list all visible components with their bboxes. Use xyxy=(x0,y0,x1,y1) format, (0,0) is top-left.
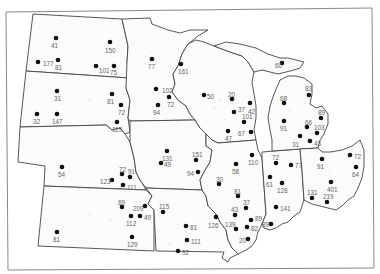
map-dot-label: 68 xyxy=(280,95,288,102)
map-dot-label: 72 xyxy=(354,153,362,160)
map-dot-label: 81 xyxy=(55,64,63,71)
map-dot-label: 41 xyxy=(51,42,59,49)
map-dot xyxy=(274,161,279,166)
map-dot-label: 91 xyxy=(128,168,136,175)
map-dot xyxy=(308,139,313,144)
map-dot xyxy=(245,225,250,230)
map-dot xyxy=(196,170,201,175)
map-dot-label: 141 xyxy=(280,205,291,212)
map-dot-label: 177 xyxy=(43,60,54,67)
map-dot xyxy=(128,175,133,180)
map-dot xyxy=(121,183,126,188)
map-dot-label: 31 xyxy=(54,95,62,102)
map-dot xyxy=(110,92,115,97)
map-dot xyxy=(226,129,231,134)
map-dot-label: 43 xyxy=(231,206,239,213)
map-dot xyxy=(154,87,159,92)
map-dot xyxy=(246,237,251,242)
map-dot-label: 102 xyxy=(162,87,173,94)
map-dot xyxy=(320,157,325,162)
map-dot-label: 72 xyxy=(167,101,175,108)
map-dot xyxy=(354,165,359,170)
map-dot-label: 49 xyxy=(164,161,172,168)
map-dot xyxy=(307,93,312,98)
map-dot-label: 72 xyxy=(119,166,127,173)
map-dot-label: 161 xyxy=(178,68,189,75)
map-dot xyxy=(54,36,59,41)
map-dot-label: 110 xyxy=(248,159,259,166)
map-dot-label: 81 xyxy=(53,236,61,243)
map-dot xyxy=(249,130,254,135)
map-dot xyxy=(319,116,324,121)
map-dot xyxy=(234,162,239,167)
map-dot xyxy=(156,103,161,108)
map-dot-label: 77 xyxy=(295,162,303,169)
map-dot xyxy=(94,64,99,69)
map-dot xyxy=(280,181,285,186)
map-dot-label: 37 xyxy=(243,199,251,206)
map-dot-label: 37 xyxy=(238,106,246,113)
midwest-dot-map: 4115017781101753181723214711954729112311… xyxy=(0,0,380,274)
map-dot-label: 72 xyxy=(272,154,280,161)
map-dot-label: 50 xyxy=(207,93,215,100)
map-dot-label: 209 xyxy=(133,205,144,212)
map-dot xyxy=(60,165,65,170)
map-dot-label: 101 xyxy=(242,113,253,120)
map-dot xyxy=(248,101,253,106)
map-dot xyxy=(184,224,189,229)
map-dot xyxy=(325,200,330,205)
map-dot-label: 147 xyxy=(52,118,63,125)
map-dot xyxy=(194,158,199,163)
map-dot-label: 30 xyxy=(216,176,224,183)
map-dot-label: 89 xyxy=(262,221,270,228)
map-dot-label: 49 xyxy=(144,214,152,221)
map-dot-label: 20 xyxy=(228,91,236,98)
map-dot xyxy=(130,235,135,240)
map-dot xyxy=(150,57,155,62)
map-dot-label: 123 xyxy=(100,178,111,185)
map-dot-label: 128 xyxy=(277,187,288,194)
map-dot xyxy=(233,213,238,218)
map-dot xyxy=(250,153,255,158)
map-dot xyxy=(176,249,181,254)
map-dot-label: 83 xyxy=(305,85,313,92)
map-dot-label: 129 xyxy=(127,241,138,248)
map-dot-label: 112 xyxy=(126,220,137,227)
map-dot-label: 58 xyxy=(232,168,240,175)
map-dot-label: 103 xyxy=(314,124,325,131)
map-dot xyxy=(185,238,190,243)
map-dot xyxy=(249,218,254,223)
map-dot xyxy=(232,110,237,115)
map-dot-label: 91 xyxy=(280,125,288,132)
map-dot xyxy=(56,58,61,63)
map-dot-label: 64 xyxy=(352,171,360,178)
map-dot-label: 77 xyxy=(148,63,156,70)
map-dot xyxy=(55,112,60,117)
map-dot xyxy=(214,215,219,220)
map-dot-label: 131 xyxy=(307,189,318,196)
map-dot-label: 101 xyxy=(99,67,110,74)
map-dot-label: 92 xyxy=(182,249,190,256)
map-dot-label: 75 xyxy=(110,69,118,76)
map-dot xyxy=(268,175,273,180)
map-dot xyxy=(244,206,249,211)
map-dot xyxy=(298,134,303,139)
map-dot-label: 82 xyxy=(251,225,259,232)
map-dot xyxy=(108,40,113,45)
map-dot-label: 89 xyxy=(318,109,326,116)
map-dot xyxy=(348,153,353,158)
map-dot xyxy=(159,161,164,166)
map-dot-label: 401 xyxy=(327,186,338,193)
map-dot-label: 66 xyxy=(305,119,313,126)
map-dot-label: 61 xyxy=(266,181,274,188)
map-dot-label: 94 xyxy=(153,109,161,116)
map-dot xyxy=(138,214,143,219)
map-dot-label: 81 xyxy=(190,224,198,231)
map-dot-label: 111 xyxy=(191,238,201,245)
map-dot xyxy=(289,163,294,168)
map-dot xyxy=(269,222,274,227)
map-dot-label: 150 xyxy=(105,47,116,54)
map-dot xyxy=(242,120,247,125)
map-dot-label: 32 xyxy=(33,118,41,125)
map-dot-label: 119 xyxy=(112,126,123,133)
